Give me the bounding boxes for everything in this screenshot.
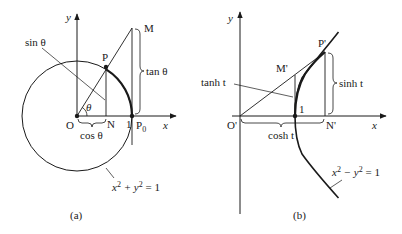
figure-canvas: y x M P O N 1 P0 θ sin θ cos θ tan θ x2 … <box>0 0 402 234</box>
unit-label: 1 <box>299 103 305 115</box>
tan-brace <box>135 29 144 114</box>
point-M-label: M <box>144 22 154 34</box>
point-O-label: O <box>66 119 74 131</box>
sinh-t-label: sinh t <box>339 77 363 89</box>
cosh-t-label: cosh t <box>268 129 294 141</box>
point-N-label: N' <box>326 119 336 131</box>
angle-theta-label: θ <box>86 101 92 113</box>
hyperbola-eq-leader <box>330 180 342 188</box>
arc-theta <box>107 70 133 116</box>
point-vertex <box>293 114 297 118</box>
cos-theta-label: cos θ <box>80 129 103 141</box>
point-P-label: P <box>102 51 108 63</box>
panel-b: y x P' M' 1 O' N' tanh t cosh t sinh t x… <box>201 12 386 222</box>
sinh-brace <box>328 53 337 114</box>
unit-label: 1 <box>126 118 132 130</box>
point-P <box>104 65 108 69</box>
point-N-label: N <box>107 118 115 130</box>
point-P0-label: P0 <box>136 119 146 134</box>
x-axis-label: x <box>371 119 377 131</box>
y-axis-label: y <box>65 11 71 23</box>
x-axis-label: x <box>162 119 168 131</box>
cos-brace <box>78 119 106 127</box>
point-O-label: O' <box>227 119 237 131</box>
tan-theta-label: tan θ <box>146 65 167 77</box>
y-axis-label: y <box>227 12 233 24</box>
caption-a: (a) <box>70 209 83 222</box>
tanh-leader <box>234 84 293 97</box>
tanh-t-label: tanh t <box>201 76 226 88</box>
point-P-label: P' <box>318 37 326 49</box>
sin-theta-label: sin θ <box>25 36 46 48</box>
circle-equation: x2 + y2 = 1 <box>111 180 160 193</box>
circle-eq-leader <box>106 168 114 178</box>
caption-b: (b) <box>293 209 306 222</box>
cosh-brace <box>241 119 324 127</box>
point-M-label: M' <box>276 62 288 74</box>
sin-leader <box>42 48 105 100</box>
hyperbola-equation: x2 − y2 = 1 <box>331 165 380 178</box>
point-O <box>75 114 79 118</box>
panel-a: y x M P O N 1 P0 θ sin θ cos θ tan θ x2 … <box>22 11 176 222</box>
